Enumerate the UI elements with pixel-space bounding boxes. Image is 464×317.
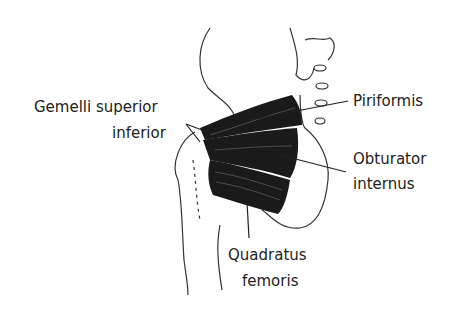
sacrum-outline (305, 38, 334, 60)
label-gemelli-superior: Gemelli superior (34, 98, 158, 116)
quadratus-leader (247, 202, 249, 238)
label-femoris: femoris (242, 272, 298, 290)
femur-outline (175, 132, 195, 295)
label-gemelli-inferior: inferior (112, 124, 166, 142)
label-obturator: Obturator (353, 150, 426, 168)
label-internus: internus (353, 175, 415, 193)
label-quadratus: Quadratus (228, 246, 307, 264)
pelvis-outline (200, 28, 235, 118)
label-piriformis: Piriformis (353, 92, 423, 110)
